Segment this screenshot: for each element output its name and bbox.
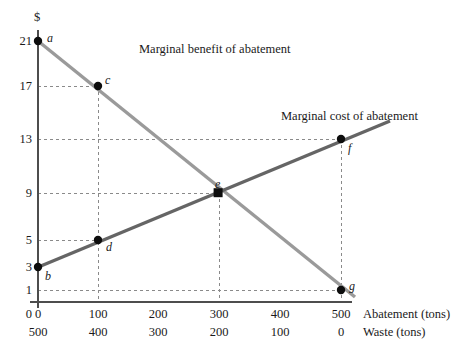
point-label-a: a: [47, 32, 53, 44]
x-tick-0: 0: [18, 308, 58, 321]
chart-figure: $ 21 17 13 9 5 3 1 0 0 100 200 300 400 5…: [0, 0, 457, 358]
point-label-b: b: [45, 270, 51, 282]
point-label-e: e: [215, 178, 220, 190]
y-tick-17: 17: [2, 80, 32, 93]
x-tick-500: 500: [321, 308, 361, 321]
point-d: [94, 236, 102, 244]
y-tick-3: 3: [2, 261, 32, 274]
y-tick-9: 9: [2, 187, 32, 200]
y-tick-21: 21: [2, 35, 32, 48]
x-tick-200: 200: [138, 308, 178, 321]
point-b: [34, 263, 42, 271]
waste-tick-300: 300: [138, 326, 178, 339]
point-label-d: d: [106, 241, 112, 253]
waste-tick-500: 500: [18, 326, 58, 339]
point-a: [34, 37, 42, 45]
marginal-cost-label: Marginal cost of abatement: [281, 110, 418, 123]
marginal-cost-curve: [36, 121, 390, 268]
x-axis-title-abatement: Abatement (tons): [363, 308, 450, 321]
point-label-c: c: [105, 74, 110, 86]
y-tick-13: 13: [2, 133, 32, 146]
point-label-g: g: [349, 280, 355, 292]
waste-tick-400: 400: [78, 326, 118, 339]
point-label-f: f: [348, 142, 351, 154]
x-tick-400: 400: [260, 308, 300, 321]
point-c: [94, 82, 102, 90]
marginal-benefit-label: Marginal benefit of abatement: [139, 43, 290, 56]
y-tick-5: 5: [2, 234, 32, 247]
waste-tick-0: 0: [321, 326, 361, 339]
y-tick-1: 1: [2, 284, 32, 297]
x-tick-300: 300: [199, 308, 239, 321]
marginal-benefit-curve: [38, 41, 355, 297]
y-axis-title: $: [34, 11, 40, 24]
waste-tick-200: 200: [199, 326, 239, 339]
waste-tick-100: 100: [260, 326, 300, 339]
x-tick-100: 100: [78, 308, 118, 321]
point-g: [337, 286, 345, 294]
point-f: [337, 135, 345, 143]
x-axis-title-waste: Waste (tons): [363, 326, 426, 339]
